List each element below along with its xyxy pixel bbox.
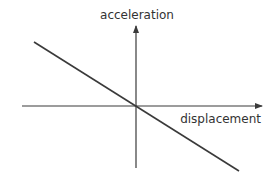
diagram-canvas: acceleration displacement — [0, 0, 273, 179]
x-axis-label: displacement — [180, 112, 261, 126]
y-axis-label: acceleration — [100, 8, 174, 22]
